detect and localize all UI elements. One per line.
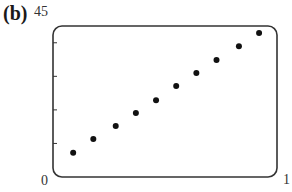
data-point bbox=[214, 57, 220, 63]
data-point bbox=[153, 97, 159, 103]
data-point bbox=[113, 123, 119, 129]
data-point bbox=[90, 136, 96, 142]
data-points bbox=[70, 30, 262, 156]
data-point bbox=[236, 43, 242, 49]
data-point bbox=[133, 110, 139, 116]
data-point bbox=[193, 70, 199, 76]
data-point bbox=[173, 83, 179, 89]
scatter-plot bbox=[0, 0, 292, 192]
data-point bbox=[70, 150, 76, 156]
data-point bbox=[256, 30, 262, 36]
plot-frame bbox=[53, 26, 277, 177]
